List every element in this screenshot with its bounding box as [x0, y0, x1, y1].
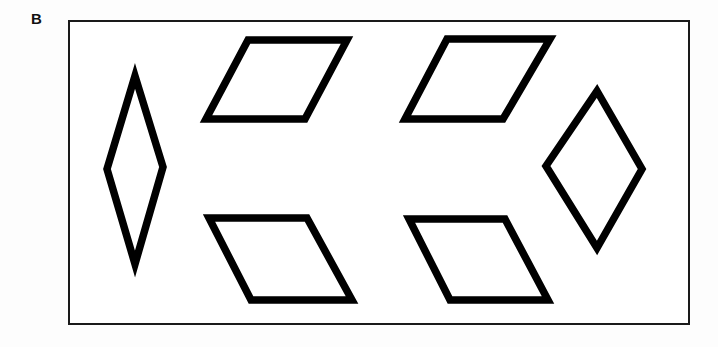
figure-panel: B: [0, 0, 718, 347]
panel-label: B: [31, 11, 42, 26]
figure-border: [68, 20, 690, 325]
